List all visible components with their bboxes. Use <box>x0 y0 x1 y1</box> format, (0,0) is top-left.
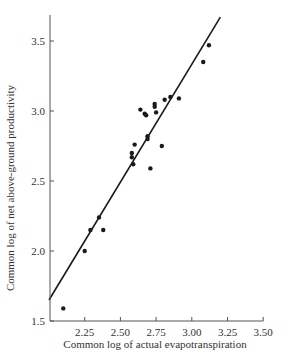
data-point <box>152 105 156 109</box>
data-point <box>130 155 134 159</box>
x-tick-label: 3.25 <box>218 326 238 338</box>
data-point <box>101 228 105 232</box>
regression-line <box>49 17 220 300</box>
x-tick-label: 2.75 <box>146 326 166 338</box>
data-point <box>138 107 142 111</box>
y-tick-label: 3.5 <box>31 35 45 47</box>
y-tick-label: 1.5 <box>31 315 45 327</box>
data-point <box>154 110 158 114</box>
data-point <box>177 96 181 100</box>
y-tick-label: 2.5 <box>31 175 45 187</box>
data-point <box>144 113 148 117</box>
data-point <box>83 249 87 253</box>
data-point <box>160 144 164 148</box>
scatter-chart: 1.52.02.53.03.5 2.252.502.753.003.253.50… <box>0 0 288 354</box>
y-tick-label: 2.0 <box>31 245 45 257</box>
data-point <box>130 151 134 155</box>
x-axis: 2.252.502.753.003.253.50 <box>50 317 273 338</box>
data-point <box>148 166 152 170</box>
data-point <box>162 98 166 102</box>
plot-area <box>49 17 220 310</box>
y-axis-label: Common log of net above-ground productiv… <box>4 84 16 291</box>
data-point <box>61 306 65 310</box>
y-tick-label: 3.0 <box>31 105 45 117</box>
data-point <box>132 142 136 146</box>
data-point <box>201 60 205 64</box>
data-point <box>207 43 211 47</box>
x-tick-label: 3.50 <box>254 326 274 338</box>
x-tick-label: 3.00 <box>182 326 202 338</box>
y-axis: 1.52.02.53.03.5 <box>31 15 54 327</box>
x-tick-label: 2.25 <box>75 326 95 338</box>
x-tick-label: 2.50 <box>111 326 131 338</box>
x-axis-label: Common log of actual evapotranspiration <box>63 338 247 350</box>
